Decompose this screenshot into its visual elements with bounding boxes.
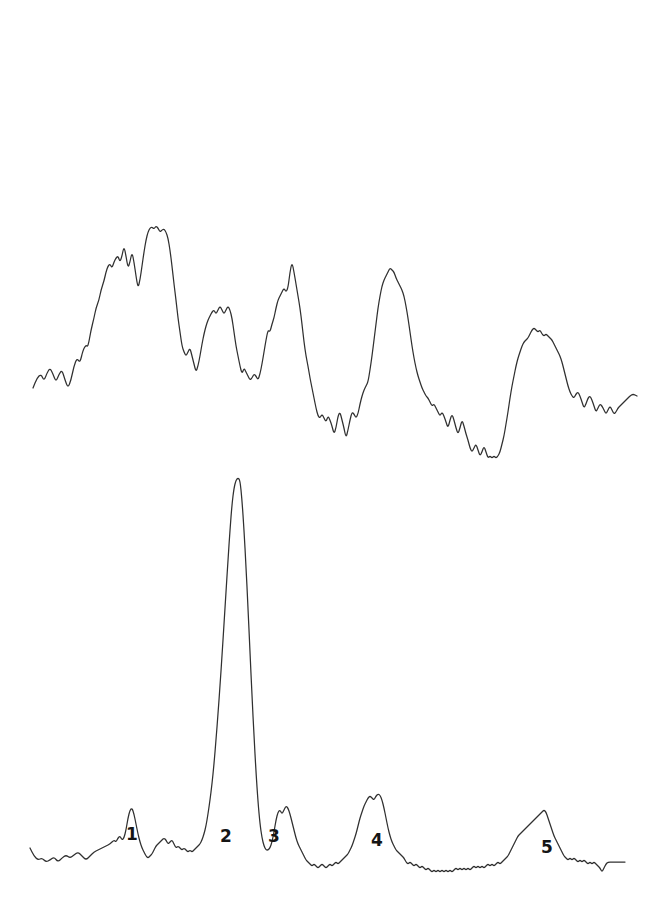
peak-label-4: 4 [371,830,383,850]
peak-label-3: 3 [268,826,280,846]
spectra-canvas: 12345 [0,0,659,899]
peak-label-1: 1 [126,824,138,844]
peak-label-2: 2 [220,826,232,846]
peak-label-5: 5 [541,837,553,857]
figure-background [0,0,659,899]
spectrum-figure: 12345 [0,0,659,899]
